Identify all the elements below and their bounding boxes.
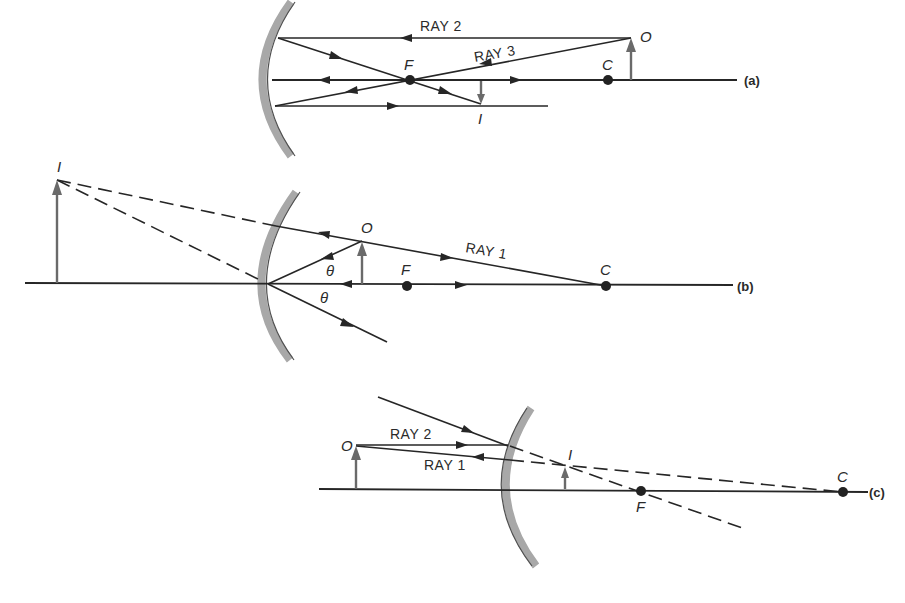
optical-axis-c	[319, 489, 868, 492]
angle-theta-incident-label: θ	[326, 262, 334, 279]
panel-label-c: (c)	[869, 485, 885, 500]
arrowhead-icon	[340, 280, 352, 288]
arrowhead-icon	[456, 441, 468, 449]
focal-point-b	[402, 281, 412, 291]
arrowhead-icon	[461, 425, 474, 433]
center-label-a: C	[602, 56, 613, 73]
center-of-curvature-b	[601, 281, 611, 291]
panel-b: RAY 1 F C O I θ θ (b)	[25, 158, 754, 360]
ray-2-virtual-extension-c	[510, 446, 745, 529]
ray-vertex-virtual-extension-b	[57, 180, 262, 281]
image-label-b: I	[57, 158, 61, 175]
arrowhead-icon	[438, 86, 452, 94]
panel-c: RAY 2 RAY 1 O I F C (c)	[319, 397, 885, 566]
panel-a: RAY 2 RAY 3 F C O I (a)	[263, 2, 760, 156]
ray-1-label-b: RAY 1	[464, 239, 508, 262]
ray-2-label-a: RAY 2	[420, 18, 462, 34]
object-arrowhead-icon	[357, 242, 367, 256]
ray-to-vertex-b	[268, 241, 362, 284]
arrowhead-icon	[318, 76, 330, 84]
arrowhead-icon	[321, 252, 334, 260]
image-label-a: I	[478, 110, 482, 127]
focus-label-c: F	[636, 498, 646, 515]
angle-theta-reflected-label: θ	[320, 289, 328, 306]
arrowhead-icon	[455, 281, 467, 289]
center-of-curvature-a	[603, 75, 613, 85]
panel-label-a: (a)	[744, 73, 760, 88]
ray-1-virtual-extension-c	[510, 460, 843, 492]
focal-point-a	[405, 75, 415, 85]
center-label-b: C	[600, 261, 611, 278]
ray-1-virtual-extension-b	[57, 180, 276, 226]
center-of-curvature-c	[838, 487, 848, 497]
image-label-c: I	[568, 446, 572, 463]
convex-mirror-c	[506, 408, 536, 566]
mirror-ray-diagram-figure: RAY 2 RAY 3 F C O I (a)	[0, 0, 905, 603]
mirror-reflecting-surface-a	[268, 2, 296, 156]
arrowhead-icon	[440, 253, 453, 261]
ray-1-label-c: RAY 1	[424, 457, 466, 473]
object-label-a: O	[640, 28, 652, 45]
center-label-c: C	[837, 468, 848, 485]
focus-label-a: F	[404, 56, 414, 73]
optical-axis-b	[25, 283, 733, 285]
arrowhead-icon	[329, 51, 343, 59]
arrowhead-icon	[387, 102, 399, 110]
ray-2-reflected-a	[278, 38, 481, 104]
arrowhead-icon	[400, 34, 412, 42]
focal-point-c	[636, 486, 646, 496]
ray-2-label-c: RAY 2	[390, 426, 432, 442]
concave-mirror-a	[263, 2, 292, 156]
object-label-c: O	[341, 437, 353, 454]
object-arrowhead-icon	[626, 38, 636, 52]
image-arrowhead-icon	[561, 467, 569, 478]
arrowhead-icon	[510, 76, 522, 84]
arrowhead-icon	[318, 231, 330, 239]
focus-label-b: F	[401, 261, 411, 278]
arrowhead-icon	[472, 453, 484, 461]
panel-label-b: (b)	[737, 279, 754, 294]
ray-3-incident-a	[275, 38, 631, 106]
object-label-b: O	[361, 219, 373, 236]
